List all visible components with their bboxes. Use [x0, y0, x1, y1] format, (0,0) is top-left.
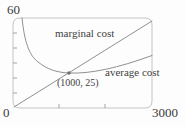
x-axis-max-label: 3000	[152, 106, 178, 119]
y-axis-ticks	[13, 33, 17, 93]
x-axis-ticks	[59, 104, 105, 108]
origin-label: 0	[3, 106, 10, 119]
minimum-point-label: (1000, 25)	[57, 78, 99, 88]
cost-curves-chart: 60 0 3000 marginal cost average cost (10…	[0, 0, 186, 127]
y-axis-max-label: 60	[7, 3, 20, 16]
average-cost-label: average cost	[105, 67, 160, 78]
marginal-cost-label: marginal cost	[55, 28, 114, 39]
minimum-point-marker	[67, 71, 70, 74]
